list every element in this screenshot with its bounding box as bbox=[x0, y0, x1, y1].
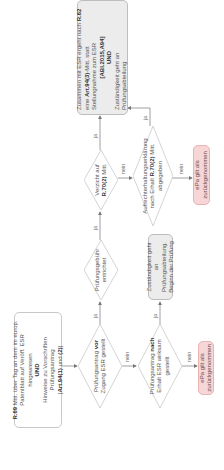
label-nein-verzicht: nein bbox=[120, 164, 126, 174]
start-box: R.69 Mitt. über Tag an dem im europ. Pat… bbox=[14, 312, 62, 428]
decision-verzicht-r70: Verzicht auf R.70(2) Mitt. bbox=[84, 150, 118, 210]
start-and: UND bbox=[34, 364, 42, 377]
decision-aufrechterhaltungserklaerung: Aufrechterhaltungserklärung nach Erhalt … bbox=[133, 126, 173, 226]
label-ja-vor: ja bbox=[92, 314, 98, 318]
box-final-art94-3: Zusammen mit ESR ergeht nach R.62 eine A… bbox=[77, 0, 128, 115]
start-line2: Hinweise zu Vorschriften Prüfungsantrag bbox=[42, 317, 57, 423]
terminal-epa-zurueckgenommen-1: ePa gilt als zurückgenommen bbox=[198, 341, 214, 395]
terminal-epa-zurueckgenommen-2: ePa gilt als zurückgenommen bbox=[193, 145, 210, 205]
label-nein-vor: nein bbox=[124, 352, 130, 362]
label-ja-aufrecht: ja bbox=[142, 116, 148, 120]
start-line1: R.69 Mitt. über Tag an dem im europ. Pat… bbox=[12, 317, 35, 423]
decision-antrag-nach-erhalt: Prüfungsantrag nach Erhalt ESR wirksam g… bbox=[138, 324, 182, 408]
label-ja-nach: ja bbox=[152, 314, 158, 318]
box-zustaendigkeit-pruefungsabteilung: Zuständigkeit geht an Prüfungsabteilung.… bbox=[148, 234, 173, 300]
label-ja-verzicht: ja bbox=[92, 134, 98, 138]
decision-pruefungsgebuehr: Prüfungsgebühr entrichtet bbox=[84, 240, 118, 300]
label-nein-nach: nein bbox=[186, 352, 192, 362]
start-line3: [Art.94(1) und (2)] bbox=[57, 346, 65, 394]
label-ja-fee: ja bbox=[92, 226, 98, 230]
decision-antrag-vor-zugang: Prüfungsantrag vor Zugang ESR gestellt bbox=[78, 324, 122, 408]
label-nein-aufrecht: nein bbox=[178, 164, 184, 174]
flowchart-canvas: R.69 Mitt. über Tag an dem im europ. Pat… bbox=[0, 0, 224, 470]
